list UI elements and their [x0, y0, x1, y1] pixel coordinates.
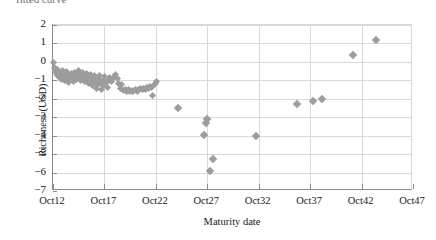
y-axis-tick-label: −4: [0, 129, 46, 140]
y-axis-tick: [53, 99, 57, 100]
x-axis-tick: [362, 184, 363, 189]
x-axis-tick-label: Oct37: [285, 195, 333, 206]
x-axis-tick-label: Oct42: [337, 195, 385, 206]
y-gridline: [53, 154, 411, 155]
x-axis-tick: [310, 184, 311, 189]
x-gridline: [156, 25, 157, 189]
clipped-caption-text: fitted curve: [16, 0, 66, 5]
x-axis-tick-label: Oct27: [182, 195, 230, 206]
x-axis-tick: [156, 184, 157, 189]
y-gridline: [53, 43, 411, 44]
x-axis-tick-label: Oct22: [131, 195, 179, 206]
x-axis-title: Maturity date: [52, 216, 412, 227]
y-axis-tick-label: −5: [0, 147, 46, 158]
y-axis-tick: [53, 43, 57, 44]
x-axis-tick: [53, 184, 54, 189]
x-gridline: [207, 25, 208, 189]
y-gridline: [53, 99, 411, 100]
y-axis-tick: [53, 80, 57, 81]
y-axis-tick-label: −1: [0, 73, 46, 84]
scatter-point: [317, 95, 325, 103]
x-gridline: [362, 25, 363, 189]
x-axis-tick-label: Oct12: [28, 195, 76, 206]
y-axis-tick: [53, 136, 57, 137]
y-axis-tick-label: −6: [0, 166, 46, 177]
y-axis-tick-label: −3: [0, 110, 46, 121]
x-axis-tick-label: Oct17: [79, 195, 127, 206]
y-axis-tick: [53, 25, 57, 26]
x-axis-tick: [259, 184, 260, 189]
scatter-point: [349, 51, 357, 59]
x-gridline: [259, 25, 260, 189]
scatter-chart-figure: fitted curve Richeness (USD) Maturity da…: [0, 0, 436, 240]
x-axis-tick-label: Oct32: [234, 195, 282, 206]
x-axis-tick-label: Oct47: [388, 195, 436, 206]
y-axis-tick-label: 2: [0, 18, 46, 29]
y-gridline: [53, 62, 411, 63]
y-axis-tick: [53, 154, 57, 155]
scatter-point: [209, 154, 217, 162]
y-axis-tick-label: 1: [0, 36, 46, 47]
y-axis-tick: [53, 191, 57, 192]
plot-area: [52, 24, 412, 190]
x-axis-tick: [413, 184, 414, 189]
y-axis-tick-label: −7: [0, 184, 46, 195]
y-axis-tick: [53, 117, 57, 118]
x-gridline: [104, 25, 105, 189]
y-gridline: [53, 136, 411, 137]
y-gridline: [53, 173, 411, 174]
x-gridline: [310, 25, 311, 189]
x-axis-tick: [207, 184, 208, 189]
x-axis-tick: [104, 184, 105, 189]
y-axis-tick: [53, 173, 57, 174]
scatter-point: [173, 104, 181, 112]
scatter-point: [293, 100, 301, 108]
y-gridline: [53, 25, 411, 26]
y-axis-tick-label: −2: [0, 92, 46, 103]
y-gridline: [53, 117, 411, 118]
y-axis-tick-label: 0: [0, 55, 46, 66]
